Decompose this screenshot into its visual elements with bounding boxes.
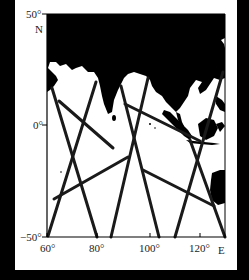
- landmass-asia: [47, 14, 225, 114]
- x-tick-label-60: 60°: [40, 243, 55, 254]
- island-dot: [60, 171, 62, 173]
- track-line: [111, 78, 148, 237]
- satellite-tracks: [48, 72, 225, 237]
- island-dot: [154, 127, 156, 129]
- y-tick-label-50s: −50°: [20, 232, 42, 243]
- y-axis-direction-label: N: [35, 24, 43, 35]
- y-tick-label-50n: 50°: [26, 9, 41, 20]
- track-line: [52, 88, 97, 237]
- island-dot: [149, 123, 151, 125]
- x-tick-label-80: 80°: [89, 243, 104, 254]
- island-srilanka: [112, 115, 116, 121]
- x-axis-direction-label: E: [218, 245, 225, 256]
- x-tick-label-120: 120°: [189, 243, 210, 254]
- y-tick-label-0: 0°: [33, 120, 43, 131]
- landmass-philippines: [216, 96, 225, 112]
- x-tick-label-100: 100°: [139, 243, 160, 254]
